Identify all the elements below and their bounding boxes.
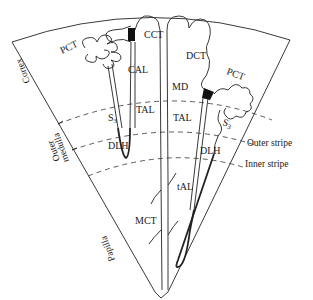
dlh-right-limb [176,154,214,267]
segment-labels: PCT CAL CCT DCT PCT MD S3 TAL TAL S3 DLH… [58,29,246,226]
tal-left-outer [130,42,131,128]
cal-to-md-left [106,26,131,42]
macula-densa-left [128,28,135,41]
pct-left-convolution-inner [85,50,109,62]
mct-branch-right-1 [168,173,176,185]
mct-branch-right-2 [168,221,178,235]
outer-medulla-papilla-boundary [88,158,246,176]
label-dlh-left: DLH [108,140,129,151]
label-cal: CAL [128,64,148,75]
zone-boundaries [58,101,272,176]
label-tal-right: TAL [173,112,192,123]
label-cortex: Cortex [14,57,32,85]
cct-right-wall [167,30,168,290]
cortex-outer-stripe-boundary [58,101,272,124]
dct-right-path [201,40,209,90]
label-tal-thin: tAL [177,181,193,192]
mct-branch-left-2 [149,230,161,244]
cct-cap-arc [167,16,210,40]
label-pct-right: PCT [225,66,246,83]
label-dlh-right: DLH [200,145,221,156]
left-wedge-edge [12,42,155,292]
cct-left-wall [160,30,162,290]
label-md: MD [172,81,188,92]
label-outer-stripe: Outer stripe [247,138,292,148]
pct-left-convolution [82,35,121,69]
label-cct: CCT [144,29,163,40]
label-pct-left: PCT [58,38,79,56]
kidney-nephron-diagram: PCT CAL CCT DCT PCT MD S3 TAL TAL S3 DLH… [0,0,313,300]
zone-labels: Cortex Outer medulla Papilla Outer strip… [14,57,293,263]
label-tal-left: TAL [136,104,155,115]
pct-right-convolution [214,84,253,119]
mct-branch-left-1 [151,190,161,204]
label-dct: DCT [186,50,206,61]
label-papilla: Papilla [98,234,117,263]
wedge-tip [155,292,168,298]
label-inner-stripe: Inner stripe [245,159,289,169]
tal-thin-right [180,210,194,266]
label-mct: MCT [135,215,157,226]
outer-inner-stripe-boundary [72,132,258,150]
